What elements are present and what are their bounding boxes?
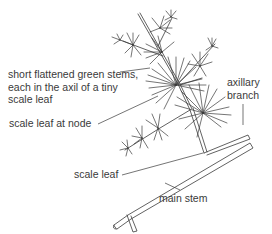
main-stem-drawing — [113, 143, 253, 232]
label-cladodes-line1: short flattened green stems, — [8, 68, 138, 81]
label-cladodes-line2: each in the axil of a tiny — [8, 81, 138, 94]
label-cladodes-line3: scale leaf — [8, 93, 138, 106]
label-axillary-line1: axillary — [227, 76, 260, 89]
label-scale-leaf-at-node: scale leaf at node — [9, 117, 91, 130]
label-axillary-line2: branch — [227, 89, 260, 102]
label-scale-leaf: scale leaf — [74, 168, 118, 181]
label-axillary-branch: axillary branch — [227, 76, 260, 101]
label-main-stem: main stem — [159, 192, 207, 205]
leader-scale-leaf — [122, 153, 203, 175]
label-cladodes: short flattened green stems, each in the… — [8, 68, 138, 106]
